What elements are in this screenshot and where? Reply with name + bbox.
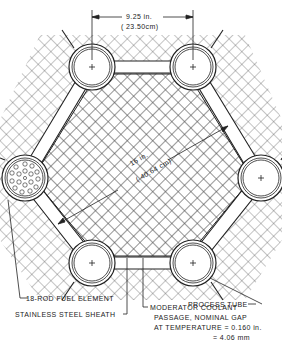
tube-bottom-left <box>69 240 115 286</box>
tube-bottom-right <box>170 240 216 286</box>
coolant-label-line4: = 4.06 mm <box>213 333 250 342</box>
tube-left-with-fuel-element <box>2 155 48 201</box>
coolant-label-line3: AT TEMPERATURE = 0.160 in. <box>154 323 262 332</box>
coolant-label-line2: PASSAGE, NOMINAL GAP <box>154 313 247 322</box>
pitch-label-imperial: 9.25 in. <box>126 12 152 21</box>
pitch-label-metric: ( 23.50cm) <box>121 22 158 31</box>
fuel-element-label: 18-ROD FUEL ELEMENT <box>26 294 114 303</box>
coolant-label-line1: MODERATOR COOLANT <box>150 303 237 312</box>
sheath-label: STAINLESS STEEL SHEATH <box>15 310 115 319</box>
tube-right <box>238 155 282 201</box>
